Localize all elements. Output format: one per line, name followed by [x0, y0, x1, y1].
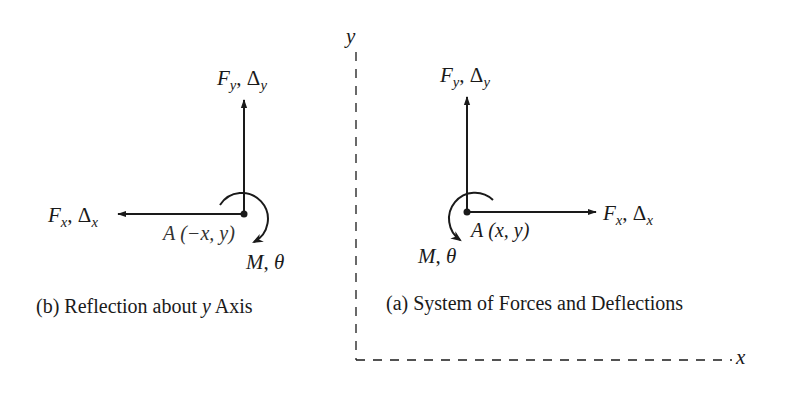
y-axis-label: y: [346, 24, 355, 49]
fy-label-b: Fy, Δy: [217, 66, 267, 94]
fy-force-symbol: F: [440, 63, 453, 87]
point-a-a: [464, 209, 471, 216]
caption-a-text: (a) System of Forces and Deflections: [386, 292, 683, 314]
point-label-a: A (x, y): [471, 219, 529, 242]
caption-b: (b) Reflection about y Axis: [36, 295, 253, 318]
fy-delta-subscript: y: [260, 77, 267, 93]
fy-separator: ,: [459, 63, 470, 87]
moment-symbol: M: [246, 250, 264, 274]
moment-separator: ,: [436, 244, 447, 268]
fy-separator: ,: [236, 66, 247, 90]
x-axis-label: x: [736, 345, 745, 370]
point-label-b: A (−x, y): [163, 222, 235, 245]
fy-label-a: Fy, Δy: [440, 63, 490, 91]
fy-delta-symbol: Δ: [247, 66, 261, 90]
caption-b-var: y: [202, 295, 211, 317]
fx-separator: ,: [67, 203, 78, 227]
point-a-b: [241, 211, 248, 218]
fy-force-symbol: F: [217, 66, 230, 90]
diagram-canvas: [0, 0, 788, 396]
point-coords: (x, y): [488, 219, 529, 241]
fx-label-b: Fx, Δx: [48, 203, 98, 231]
caption-b-prefix: (b) Reflection about: [36, 295, 202, 317]
rotation-symbol: θ: [446, 244, 456, 268]
fx-force-symbol: F: [603, 201, 616, 225]
y-axis-label-text: y: [346, 24, 355, 48]
moment-label-a: M, θ: [418, 244, 456, 269]
fx-delta-symbol: Δ: [633, 201, 647, 225]
fx-delta-subscript: x: [91, 214, 98, 230]
moment-symbol: M: [418, 244, 436, 268]
moment-separator: ,: [264, 250, 275, 274]
moment-label-b: M, θ: [246, 250, 284, 275]
panel-b-vectors: [118, 100, 268, 242]
point-name: A: [471, 219, 483, 241]
fy-delta-subscript: y: [483, 74, 490, 90]
fx-delta-subscript: x: [646, 212, 653, 228]
fy-delta-symbol: Δ: [470, 63, 484, 87]
fx-separator: ,: [622, 201, 633, 225]
fx-delta-symbol: Δ: [78, 203, 92, 227]
caption-a: (a) System of Forces and Deflections: [386, 292, 683, 315]
point-coords: (−x, y): [180, 222, 235, 244]
caption-b-suffix: Axis: [211, 295, 253, 317]
fx-label-a: Fx, Δx: [603, 201, 653, 229]
point-name: A: [163, 222, 175, 244]
x-axis-label-text: x: [736, 345, 745, 369]
rotation-symbol: θ: [274, 250, 284, 274]
fx-force-symbol: F: [48, 203, 61, 227]
